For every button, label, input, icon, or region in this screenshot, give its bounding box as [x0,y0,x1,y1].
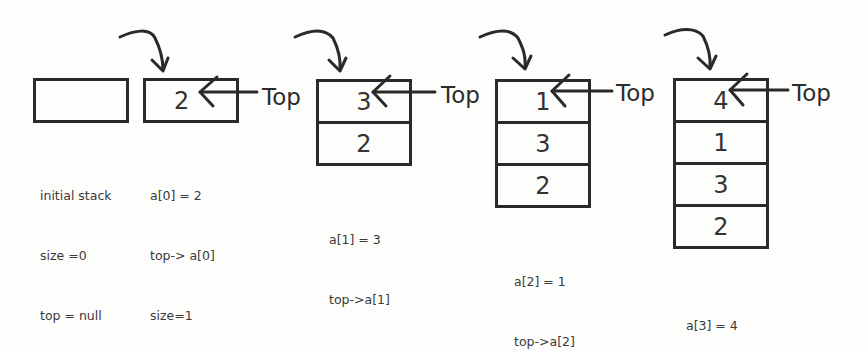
stack-stage-4: 4 1 3 2 [673,78,769,249]
caption-stage-3: a[2] = 1 top->a[2] size=3 [514,232,575,351]
caption-line: size=1 [150,306,215,326]
stack-cell: 2 [673,204,769,249]
push-arrow-icon [120,31,168,71]
caption-stage-0: initial stack size =0 top = null [40,146,112,346]
caption-stage-1: a[0] = 2 top-> a[0] size=1 [150,146,215,346]
stack-cell: 2 [495,163,591,208]
caption-line: a[1] = 3 [329,230,390,250]
caption-line: size =0 [40,246,112,266]
caption-line: a[3] = 4 [686,316,747,336]
caption-line: top->a[2] [514,332,575,351]
stack-cell: 3 [673,162,769,207]
stack-stage-0 [33,78,129,123]
stack-cell-empty [33,78,129,123]
top-pointer-label: Top [262,84,301,110]
stack-stage-2: 3 2 [316,79,412,166]
stack-stage-1: 2 [143,78,239,123]
top-pointer-label: Top [616,80,655,106]
top-pointer-label: Top [792,80,831,106]
push-arrow-icon [480,31,531,69]
caption-line: a[2] = 1 [514,272,575,292]
stack-stage-3: 1 3 2 [495,79,591,208]
stack-cell-top: 4 [673,78,769,123]
stack-cell-top: 1 [495,79,591,124]
push-arrow-icon [295,31,346,71]
caption-stage-4: a[3] = 4 top->a[3] size=4 [686,276,747,351]
caption-line: a[0] = 2 [150,186,215,206]
stack-cell: 1 [673,120,769,165]
stack-cell-top: 3 [316,79,412,124]
stack-cell: 2 [316,121,412,166]
stack-cell: 2 [143,78,239,123]
caption-line: top = null [40,306,112,326]
caption-line: top->a[1] [329,290,390,310]
caption-line: initial stack [40,186,112,206]
caption-line: top-> a[0] [150,246,215,266]
caption-stage-2: a[1] = 3 top->a[1] size=2 [329,190,390,351]
stack-cell: 3 [495,121,591,166]
top-pointer-label: Top [441,82,480,108]
push-arrow-icon [665,30,716,70]
